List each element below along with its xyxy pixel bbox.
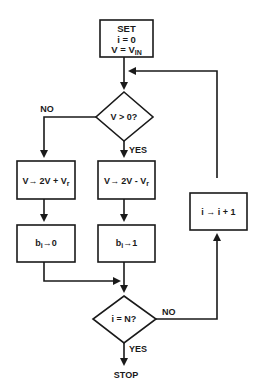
decision-v-no-label: NO [40,104,54,114]
flowchart: SET i = 0 V = VIN V > 0? NO YES V→2V + V… [0,0,263,392]
box-add-label: V→2V + Vr [22,176,69,187]
box-b0-label: bi→0 [35,238,56,249]
box-sub-label: V→2V - Vr [104,176,149,187]
decision-v-label: V > 0? [111,112,138,122]
connector-decision-no [44,117,96,156]
decision-n-no-label: NO [162,307,176,317]
start-line1: SET [117,23,136,34]
decision-n-yes-label: YES [129,344,147,354]
connector-b0-merge [44,262,119,281]
box-b1-label: bi→1 [116,238,137,249]
box-increment-label: i → i + 1 [201,207,235,217]
decision-n-label: i = N? [112,314,137,324]
stop-label: STOP [114,370,138,380]
start-line2: i = 0 [117,34,136,45]
decision-v-yes-label: YES [129,145,147,155]
